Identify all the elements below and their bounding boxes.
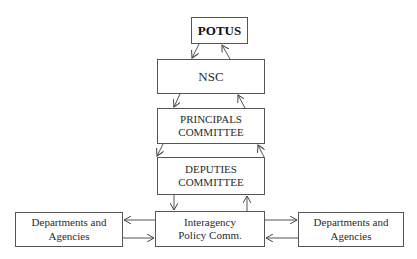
node-nsc-label: NSC xyxy=(198,69,223,85)
node-principals-line2: COMMITTEE xyxy=(178,126,243,139)
node-principals-line1: PRINCIPALS xyxy=(180,113,242,126)
node-interagency-line1: Interagency xyxy=(184,216,236,229)
arrow-nsc-to-principals xyxy=(174,94,180,107)
node-deputies-committee: DEPUTIES COMMITTEE xyxy=(157,157,265,195)
arrow-potus-to-nsc xyxy=(192,44,199,58)
node-potus-label: POTUS xyxy=(198,23,241,39)
node-departments-agencies-left: Departments and Agencies xyxy=(15,212,123,247)
node-interagency-policy-committee: Interagency Policy Comm. xyxy=(155,211,265,247)
node-dept-left-line1: Departments and xyxy=(32,216,107,229)
node-departments-agencies-right: Departments and Agencies xyxy=(298,212,404,247)
node-deputies-line2: COMMITTEE xyxy=(178,176,243,189)
node-dept-left-line2: Agencies xyxy=(49,230,90,243)
node-nsc: NSC xyxy=(157,59,265,94)
node-interagency-line2: Policy Comm. xyxy=(178,229,242,242)
arrow-deputies-to-principals xyxy=(258,145,264,157)
node-principals-committee: PRINCIPALS COMMITTEE xyxy=(157,108,265,144)
arrow-principals-to-deputies xyxy=(157,144,163,156)
arrow-principals-to-nsc xyxy=(238,95,245,108)
node-potus: POTUS xyxy=(191,17,248,44)
node-dept-right-line2: Agencies xyxy=(331,230,372,243)
arrow-nsc-to-potus xyxy=(222,45,230,59)
node-dept-right-line1: Departments and xyxy=(314,216,389,229)
node-deputies-line1: DEPUTIES xyxy=(185,163,237,176)
